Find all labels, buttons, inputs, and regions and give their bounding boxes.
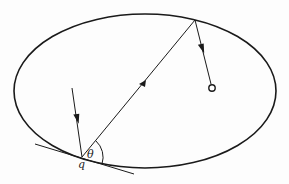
point-label: q [78, 158, 85, 171]
reflected-arrow-icon [198, 43, 206, 54]
reflected-ray [195, 20, 211, 84]
focus-circle [209, 85, 215, 91]
ellipse-reflection-diagram: θ q [0, 0, 289, 184]
angle-arc [96, 141, 103, 164]
incoming-ray [72, 88, 82, 157]
angle-label: θ [87, 148, 94, 161]
chord-ray [82, 20, 195, 157]
ellipse-boundary [14, 14, 276, 168]
diagram-svg [0, 0, 289, 184]
